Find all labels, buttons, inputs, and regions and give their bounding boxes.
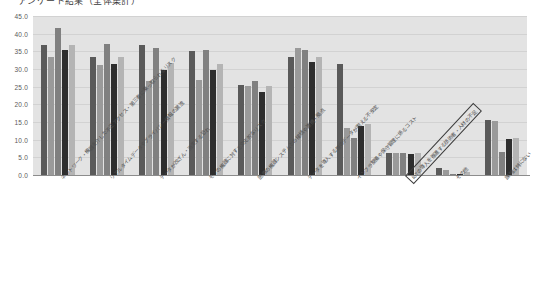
bar <box>337 64 343 175</box>
bar <box>288 57 294 175</box>
y-axis-tick-label: 15.0 <box>15 119 28 126</box>
bar <box>48 57 54 175</box>
x-axis-labels: ネットワーク・機器を介した不正アクセス・第三者に乗っ取られるリスクリアルタイムデ… <box>0 176 539 292</box>
bar <box>153 48 159 175</box>
bar <box>436 168 442 175</box>
bar <box>351 138 357 175</box>
bar <box>386 153 392 175</box>
bar <box>41 45 47 175</box>
bar <box>499 152 505 175</box>
bar <box>69 45 75 175</box>
y-axis: 0.05.010.015.020.025.030.035.040.045.0 <box>0 16 31 175</box>
bar <box>400 153 406 175</box>
bar-group <box>33 16 82 175</box>
bar <box>485 120 491 175</box>
y-axis-tick-label: 45.0 <box>15 13 28 20</box>
y-axis-tick-label: 5.0 <box>18 154 28 161</box>
y-axis-tick-label: 20.0 <box>15 101 28 108</box>
y-axis-tick-label: 30.0 <box>15 66 28 73</box>
bar <box>295 48 301 175</box>
bar <box>139 45 145 175</box>
y-axis-tick-label: 35.0 <box>15 48 28 55</box>
bar <box>302 50 308 175</box>
bar <box>189 51 195 175</box>
bar <box>97 65 103 175</box>
chart-title: アンケート結果（全体集計） <box>18 0 318 8</box>
bar <box>238 85 244 175</box>
y-axis-tick-label: 40.0 <box>15 30 28 37</box>
bar <box>393 153 399 175</box>
bar <box>55 28 61 175</box>
bar-group <box>478 16 527 175</box>
bar <box>62 50 68 175</box>
bar <box>104 44 110 175</box>
y-axis-tick-label: 25.0 <box>15 83 28 90</box>
bar <box>196 80 202 175</box>
chart-screenshot: アンケート結果（全体集計） 0.05.010.015.020.025.030.0… <box>0 0 539 292</box>
bar <box>492 121 498 175</box>
bar <box>210 70 216 175</box>
y-axis-tick-label: 10.0 <box>15 136 28 143</box>
bar <box>90 57 96 175</box>
bar <box>203 50 209 175</box>
bar <box>259 92 265 175</box>
